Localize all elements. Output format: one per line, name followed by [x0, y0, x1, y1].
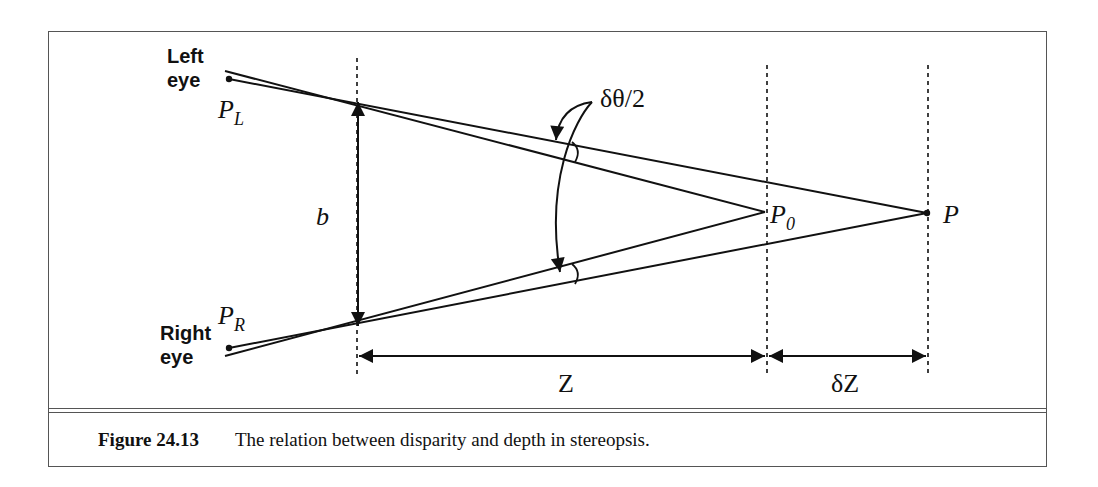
ray-left-to-p0	[225, 71, 765, 212]
left-eye-point	[226, 76, 232, 82]
baseline-label: b	[316, 202, 329, 231]
figure-caption: Figure 24.13 The relation between dispar…	[48, 413, 1047, 467]
point-p0-label: P0	[769, 200, 795, 234]
distance-dz-label: δZ	[831, 369, 859, 398]
point-pr-label: PR	[217, 301, 245, 335]
angle-label: δθ/2	[600, 84, 645, 113]
distance-z-label: Z	[558, 369, 574, 398]
angle-pointer-bottom	[556, 102, 592, 272]
right-eye-point	[226, 345, 232, 351]
point-pl-label: PL	[217, 95, 244, 129]
left-eye-label-1: Left	[167, 45, 204, 67]
left-eye-label-2: eye	[167, 69, 200, 91]
right-eye-label-2: eye	[160, 346, 193, 368]
figure-number: Figure 24.13	[98, 429, 199, 451]
point-p	[924, 210, 930, 216]
right-eye-label-1: Right	[160, 322, 211, 344]
ray-right-to-p0	[225, 212, 765, 356]
point-p-label: P	[942, 200, 959, 229]
caption-text: The relation between disparity and depth…	[235, 429, 650, 451]
